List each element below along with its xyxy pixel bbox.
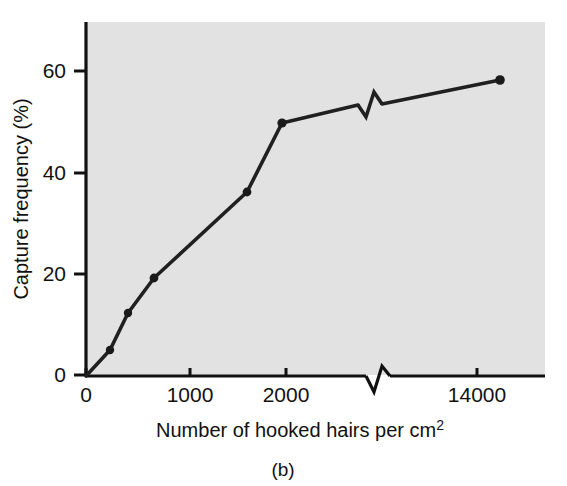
data-point-1 bbox=[106, 346, 114, 354]
y-tick-label-60: 60 bbox=[43, 59, 66, 82]
x-tick-label-0: 0 bbox=[80, 383, 92, 406]
data-point-2 bbox=[124, 309, 132, 317]
x-axis-title-text: Number of hooked hairs per cm bbox=[156, 419, 436, 441]
data-point-3 bbox=[150, 274, 159, 283]
y-axis-ticks bbox=[74, 71, 86, 375]
x-tick-label-2000: 2000 bbox=[263, 383, 310, 406]
plot-area-background bbox=[86, 22, 545, 375]
x-axis-title: Number of hooked hairs per cm2 bbox=[156, 417, 444, 441]
data-point-6 bbox=[495, 75, 505, 85]
figure-panel-b: 0 20 40 60 0 1000 2000 14000 Capture fre… bbox=[0, 0, 567, 486]
x-tick-label-1000: 1000 bbox=[167, 383, 214, 406]
y-tick-label-40: 40 bbox=[43, 161, 66, 184]
y-tick-label-20: 20 bbox=[43, 262, 66, 285]
y-axis-title: Capture frequency (%) bbox=[10, 98, 32, 299]
data-point-5 bbox=[277, 118, 286, 127]
data-point-4 bbox=[243, 188, 252, 197]
chart-svg: 0 20 40 60 0 1000 2000 14000 Capture fre… bbox=[0, 0, 567, 486]
x-axis-title-superscript: 2 bbox=[436, 417, 444, 433]
x-tick-label-14000: 14000 bbox=[448, 383, 506, 406]
figure-caption: (b) bbox=[271, 459, 294, 480]
y-tick-label-0: 0 bbox=[54, 363, 66, 386]
